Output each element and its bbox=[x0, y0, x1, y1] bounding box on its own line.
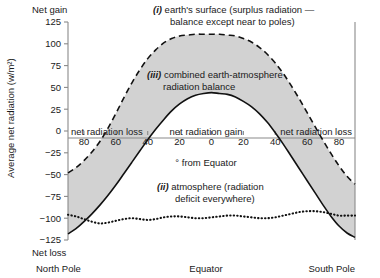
y-tick-label: −75 bbox=[45, 191, 61, 202]
x-axis-title: ° from Equator bbox=[175, 157, 236, 168]
y-tick-label: 75 bbox=[50, 60, 61, 71]
y-tick-label: 25 bbox=[50, 104, 61, 115]
zone-label-left: net radiation loss bbox=[71, 126, 143, 137]
north-pole-label: North Pole bbox=[36, 263, 81, 274]
annotation-ii-line1: (ii) atmosphere (radiation bbox=[157, 181, 264, 192]
y-tick-label: −100 bbox=[40, 213, 61, 224]
chart-svg: 1251007550250−25−50−75−100−125 806040200… bbox=[0, 0, 380, 278]
y-tick-label: 50 bbox=[50, 82, 61, 93]
south-pole-label: South Pole bbox=[309, 263, 355, 274]
y-axis-title: Average net radiation (w/m²) bbox=[5, 58, 16, 178]
x-tick-label: 20 bbox=[174, 136, 185, 147]
x-tick-label: 0 bbox=[209, 136, 214, 147]
y-tick-label: 0 bbox=[56, 125, 61, 136]
y-tick-label: −25 bbox=[45, 147, 61, 158]
y-tick-label: 100 bbox=[45, 38, 61, 49]
zone-label-center: net radiation gain bbox=[170, 126, 243, 137]
y-tick-label: −125 bbox=[40, 234, 61, 245]
x-tick-label: 60 bbox=[111, 136, 122, 147]
annotation-i-line2: balance except near to poles) bbox=[170, 16, 295, 27]
annotation-i-line1: (i) earth's surface (surplus radiation — bbox=[153, 4, 315, 15]
annotation-earth-surface: (i) earth's surface (surplus radiation —… bbox=[153, 4, 315, 27]
y-tick-label: 125 bbox=[45, 16, 61, 27]
annotation-ii-line2: deficit everywhere) bbox=[175, 193, 255, 204]
equator-label: Equator bbox=[189, 263, 222, 274]
net-gain-label: Net gain bbox=[32, 4, 67, 15]
x-tick-label: 60 bbox=[302, 136, 313, 147]
zone-label-right: net radiation loss bbox=[280, 126, 352, 137]
net-loss-label: Net loss bbox=[32, 247, 67, 258]
x-tick-label: 20 bbox=[238, 136, 249, 147]
x-tick-label: 40 bbox=[270, 136, 281, 147]
radiation-balance-chart: 1251007550250−25−50−75−100−125 806040200… bbox=[0, 0, 380, 278]
y-tick-label: −50 bbox=[45, 169, 61, 180]
x-tick-labels: 80604020020406080 bbox=[79, 136, 345, 147]
x-tick-label: 80 bbox=[334, 136, 345, 147]
x-tick-label: 40 bbox=[142, 136, 153, 147]
annotation-iii-line1: (iii) combined earth-atmosphere bbox=[147, 69, 283, 80]
annotation-iii-line2: radiation balance bbox=[163, 81, 235, 92]
x-tick-label: 80 bbox=[79, 136, 90, 147]
